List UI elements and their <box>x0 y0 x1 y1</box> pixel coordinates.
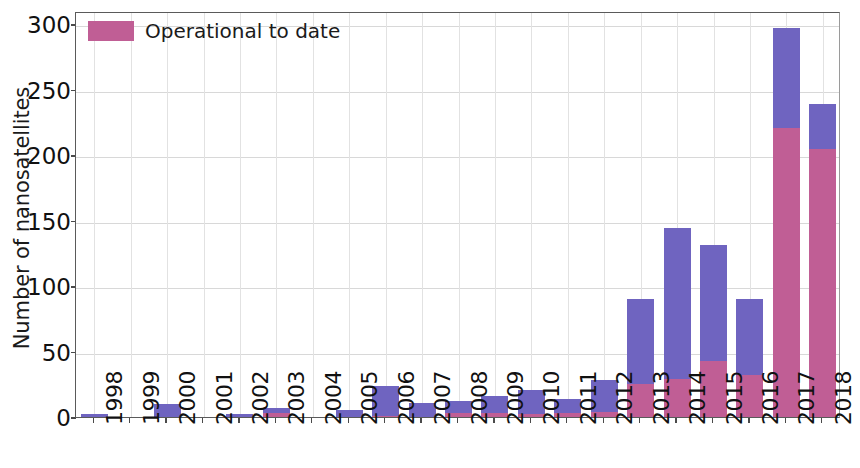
x-axis-tick-mark <box>821 418 822 423</box>
x-axis-tick-mark <box>384 418 385 423</box>
x-axis-tick-mark <box>238 418 239 423</box>
x-axis-tick-mark <box>129 418 130 423</box>
x-axis-tick-label: 2001 <box>212 371 237 425</box>
x-axis-tick-mark <box>457 418 458 423</box>
x-axis-tick-mark <box>348 418 349 423</box>
bar-series-layer <box>76 13 839 417</box>
x-axis-tick-mark <box>530 418 531 423</box>
x-axis-tick-label: 2018 <box>831 371 856 425</box>
x-axis-tick-mark <box>93 418 94 423</box>
x-axis-tick-mark <box>493 418 494 423</box>
x-axis-tick-label: 2013 <box>649 371 674 425</box>
y-axis-tick-label: 300 <box>0 12 71 38</box>
x-axis-tick-mark <box>639 418 640 423</box>
x-axis-tick-mark <box>275 418 276 423</box>
x-axis-tick-label: 2014 <box>685 371 710 425</box>
y-axis-tick-label: 100 <box>0 274 71 300</box>
x-axis-tick-mark <box>603 418 604 423</box>
x-axis-tick-label: 1999 <box>139 371 164 425</box>
x-axis-tick-label: 2016 <box>758 371 783 425</box>
x-axis-tick-label: 2011 <box>576 371 601 425</box>
x-axis-tick-mark <box>420 418 421 423</box>
legend: Operational to date <box>88 19 340 43</box>
x-axis-tick-mark <box>785 418 786 423</box>
plot-area <box>75 12 840 418</box>
x-axis-tick-label: 2007 <box>430 371 455 425</box>
y-axis-tick-label: 200 <box>0 143 71 169</box>
nanosatellite-bar-chart: Number of nanosatellites 050100150200250… <box>0 0 860 468</box>
x-axis-tick-mark <box>202 418 203 423</box>
x-axis-tick-label: 2015 <box>722 371 747 425</box>
y-axis-tick-label: 50 <box>0 340 71 366</box>
x-axis-tick-mark <box>165 418 166 423</box>
x-axis-tick-label: 2009 <box>503 371 528 425</box>
x-axis-tick-mark <box>675 418 676 423</box>
x-axis-tick-label: 2000 <box>175 371 200 425</box>
y-axis-tick-label: 150 <box>0 209 71 235</box>
bar-2017 <box>773 28 800 417</box>
x-axis-tick-mark <box>748 418 749 423</box>
x-axis-tick-label: 1998 <box>102 371 127 425</box>
x-axis-tick-label: 2005 <box>357 371 382 425</box>
x-axis-tick-label: 2017 <box>794 371 819 425</box>
legend-label-operational: Operational to date <box>145 19 340 43</box>
y-axis-tick-label: 250 <box>0 78 71 104</box>
x-axis-tick-label: 2008 <box>467 371 492 425</box>
x-axis-tick-mark <box>566 418 567 423</box>
x-axis-tick-label: 2012 <box>612 371 637 425</box>
x-axis-tick-label: 2002 <box>248 371 273 425</box>
legend-swatch-operational <box>88 21 134 41</box>
x-axis-tick-mark <box>311 418 312 423</box>
x-axis-tick-mark <box>712 418 713 423</box>
x-axis-tick-label: 2004 <box>321 371 346 425</box>
y-axis-tick-label: 0 <box>0 405 71 431</box>
x-axis-tick-label: 2003 <box>284 371 309 425</box>
x-axis-tick-label: 2010 <box>539 371 564 425</box>
x-axis-tick-label: 2006 <box>394 371 419 425</box>
